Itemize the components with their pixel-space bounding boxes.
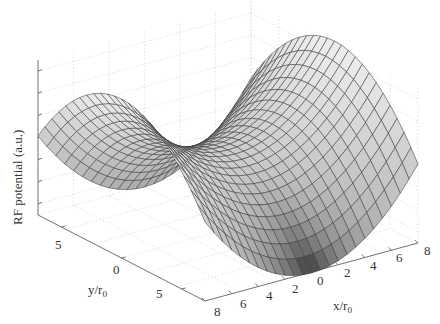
x-tick	[415, 240, 418, 243]
x-tick-label: 2	[292, 281, 299, 296]
x-tick-label: 8	[424, 243, 431, 258]
x-tick	[282, 276, 285, 279]
x-tick-label: 8	[214, 304, 221, 319]
x-tick-label: 4	[370, 258, 377, 273]
grid-line	[38, 35, 251, 93]
y-tick-label: 5	[55, 237, 62, 252]
x-tick-label: 2	[344, 265, 351, 280]
y-tick	[182, 288, 186, 289]
x-tick	[255, 284, 258, 287]
y-axis-ticks	[61, 226, 185, 289]
x-tick-label: 4	[266, 288, 273, 303]
surface-plot-figure: 5 0 5 8 6 4 2 0 2 4 6 8 x/r0 y/r0 RF pot…	[0, 0, 440, 324]
x-axis-title-subscript: 0	[347, 305, 352, 315]
y-tick	[122, 257, 126, 258]
x-tick	[362, 255, 365, 258]
y-tick-label: 0	[113, 262, 120, 277]
z-tick	[38, 158, 42, 160]
x-tick-label: 0	[317, 273, 324, 288]
z-tick	[38, 202, 42, 204]
x-tick-label: 6	[240, 296, 247, 311]
x-tick	[229, 291, 232, 294]
x-tick-label: 6	[396, 250, 403, 265]
z-tick	[38, 180, 42, 182]
x-axis-title: x/r0	[333, 298, 352, 315]
y-axis-title: y/r0	[88, 282, 107, 299]
y-tick-label: 5	[156, 286, 163, 301]
z-tick	[38, 114, 42, 116]
saddle-surface-mesh	[38, 35, 418, 275]
z-axis-title: RF potential (a.u.)	[10, 130, 25, 225]
x-tick	[388, 247, 391, 250]
z-tick	[38, 92, 42, 94]
y-axis-title-subscript: 0	[102, 289, 107, 299]
y-tick	[61, 226, 65, 227]
z-tick	[38, 70, 42, 72]
